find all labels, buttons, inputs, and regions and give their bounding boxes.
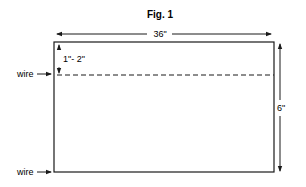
height-dimension: 6" [277, 44, 285, 171]
wire-label-top-text: wire [16, 69, 34, 79]
panel-rectangle [54, 42, 274, 172]
offset-label: 1"- 2" [63, 54, 85, 64]
wire-label-bottom: wire [16, 167, 51, 177]
width-label: 36" [153, 29, 166, 39]
wire-label-top: wire [16, 69, 51, 79]
wire-label-bottom-text: wire [16, 167, 34, 177]
figure-diagram: Fig. 1 36" 1"- 2" 6" wire wire [0, 0, 306, 187]
offset-dimension: 1"- 2" [59, 45, 85, 73]
figure-title: Fig. 1 [147, 9, 174, 20]
width-dimension: 36" [57, 29, 271, 39]
height-label: 6" [277, 103, 285, 113]
